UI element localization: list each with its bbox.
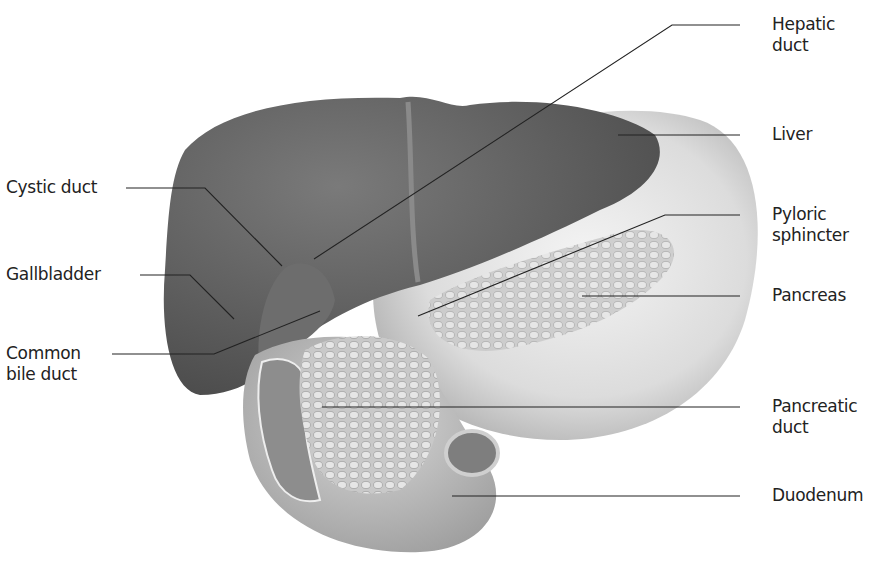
label-cystic-duct: Cystic duct — [6, 177, 97, 198]
label-common-bile-duct: Common bile duct — [6, 343, 81, 385]
label-hepatic-duct: Hepatic duct — [772, 14, 835, 56]
label-pyloric-sphincter: Pyloric sphincter — [772, 204, 849, 246]
label-gallbladder: Gallbladder — [6, 264, 101, 285]
anatomy-diagram: Cystic duct Gallbladder Common bile duct… — [0, 0, 888, 574]
anatomy-illustration — [0, 0, 888, 574]
label-pancreatic-duct: Pancreatic duct — [772, 396, 857, 438]
stomach-opening — [446, 431, 498, 475]
label-pancreas: Pancreas — [772, 285, 846, 306]
label-duodenum: Duodenum — [772, 485, 863, 506]
pancreas-head-shape — [300, 336, 440, 494]
label-liver: Liver — [772, 124, 812, 145]
